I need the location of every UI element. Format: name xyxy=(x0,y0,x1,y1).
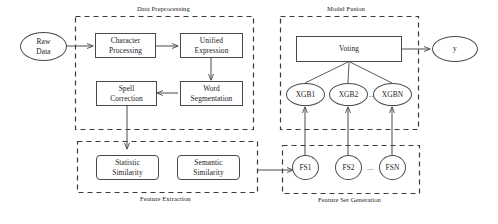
node-unified-expression-label-line2: Expression xyxy=(195,46,229,55)
node-fs-ellipsis: ... xyxy=(367,163,374,172)
group-label-feature-set-generation: Feature Set Generation xyxy=(318,196,381,203)
node-word-segmentation-label-line2: Segmentation xyxy=(191,94,233,103)
node-output-y[interactable]: y xyxy=(432,36,478,62)
node-character-processing-label-line2: Processing xyxy=(109,46,142,55)
node-statistic-similarity-label-line1: Statistic xyxy=(115,158,140,167)
node-raw-data[interactable]: Raw Data xyxy=(20,32,67,61)
node-xgb1-label: XGB1 xyxy=(296,90,316,99)
node-xgb2[interactable]: XGB2 xyxy=(329,83,368,106)
node-word-segmentation[interactable]: Word Segmentation xyxy=(180,81,243,106)
node-character-processing[interactable]: Character Processing xyxy=(95,33,156,58)
node-xgbn[interactable]: XGBN xyxy=(373,83,412,106)
diagram-connectors-layer xyxy=(0,0,498,224)
connector-xgbn-to-voting xyxy=(350,62,392,83)
node-spell-correction-label-line1: Spell xyxy=(119,84,135,93)
node-fsn[interactable]: FSN xyxy=(379,155,406,180)
node-voting[interactable]: Voting xyxy=(296,36,402,62)
node-voting-label: Voting xyxy=(339,44,359,53)
node-statistic-similarity[interactable]: Statistic Similarity xyxy=(96,155,159,180)
node-character-processing-label-line1: Character xyxy=(111,36,141,45)
node-fs1-label: FS1 xyxy=(299,163,311,172)
node-semantic-similarity[interactable]: Semantic Similarity xyxy=(177,155,240,180)
connector-xgb1-to-voting xyxy=(305,62,348,83)
node-fsn-label: FSN xyxy=(386,163,400,172)
node-unified-expression[interactable]: Unified Expression xyxy=(180,33,243,58)
group-box-model-fusion xyxy=(281,17,419,130)
node-xgb1[interactable]: XGB1 xyxy=(286,83,325,106)
node-raw-data-label-line1: Raw xyxy=(37,37,51,46)
node-statistic-similarity-label-line2: Similarity xyxy=(112,168,143,177)
node-spell-correction[interactable]: Spell Correction xyxy=(96,81,157,106)
node-spell-correction-label-line2: Correction xyxy=(110,94,143,103)
node-fs1[interactable]: FS1 xyxy=(292,155,319,180)
connector-xgb2-to-voting xyxy=(348,62,349,83)
group-label-model-fusion: Model Fusion xyxy=(327,5,365,12)
node-fs2[interactable]: FS2 xyxy=(335,155,362,180)
node-fs2-label: FS2 xyxy=(342,163,354,172)
diagram-canvas: Data Preprocessing Model Fusion Feature … xyxy=(0,0,498,224)
node-raw-data-label-line2: Data xyxy=(36,47,50,56)
node-output-y-label: y xyxy=(453,44,457,53)
node-xgbn-label: XGBN xyxy=(382,90,403,99)
group-label-data-preprocessing: Data Preprocessing xyxy=(137,5,190,12)
group-label-feature-extraction: Feature Extraction xyxy=(140,195,191,202)
node-word-segmentation-label-line1: Word xyxy=(203,84,220,93)
node-semantic-similarity-label-line2: Similarity xyxy=(193,168,224,177)
node-unified-expression-label-line1: Unified xyxy=(200,36,223,45)
node-xgb2-label: XGB2 xyxy=(339,90,359,99)
node-semantic-similarity-label-line1: Semantic xyxy=(194,158,222,167)
